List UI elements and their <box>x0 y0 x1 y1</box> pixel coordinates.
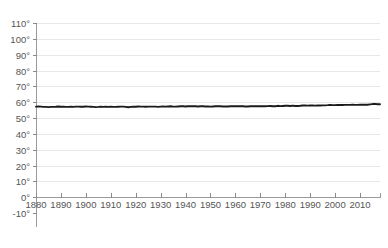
y-tick-label: 10° <box>16 176 31 187</box>
x-tick-label: 1950 <box>200 199 221 210</box>
x-tick-label: 1920 <box>125 199 146 210</box>
x-tick-label: 1960 <box>225 199 246 210</box>
x-tick-label: 1980 <box>275 199 296 210</box>
y-tick-label: 30° <box>16 145 31 156</box>
x-tick-label: 1910 <box>100 199 121 210</box>
x-axis-tick-labels: 1880189019001910192019301940195019601970… <box>25 199 370 210</box>
y-tick-label: 70° <box>16 81 31 92</box>
y-axis-tick-labels: 110°100°90°80°70°60°50°40°30°20°10°0°-10… <box>10 18 30 219</box>
y-tick-label: 110° <box>11 18 30 29</box>
y-tick-label: 40° <box>16 129 31 140</box>
y-tick-label: 90° <box>16 50 31 61</box>
x-tick-label: 1890 <box>50 199 71 210</box>
chart-canvas: 110°100°90°80°70°60°50°40°30°20°10°0°-10… <box>0 0 388 248</box>
x-tick-label: 1940 <box>175 199 196 210</box>
series-line <box>36 104 380 107</box>
temperature-line-chart: 110°100°90°80°70°60°50°40°30°20°10°0°-10… <box>0 0 388 248</box>
y-tick-label: 80° <box>16 66 31 77</box>
x-tick-label: 1990 <box>300 199 321 210</box>
gridlines-group <box>36 24 380 198</box>
y-tick-label: 20° <box>16 161 31 172</box>
x-tick-label: 1930 <box>150 199 171 210</box>
y-axis <box>33 23 37 227</box>
y-tick-label: 60° <box>16 97 31 108</box>
x-tick-label: 2010 <box>349 199 370 210</box>
x-axis <box>36 193 381 198</box>
y-tick-label: 50° <box>16 113 31 124</box>
x-tick-label: 1970 <box>250 199 271 210</box>
x-tick-label: 1880 <box>25 199 46 210</box>
y-tick-label: -10° <box>12 208 30 219</box>
data-series-group <box>36 104 380 107</box>
x-tick-label: 1900 <box>75 199 96 210</box>
x-tick-label: 2000 <box>325 199 346 210</box>
y-tick-label: 100° <box>10 34 30 45</box>
